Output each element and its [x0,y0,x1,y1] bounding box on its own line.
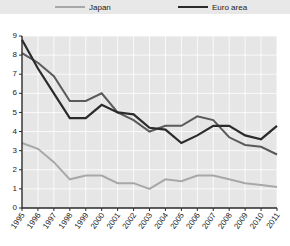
y-axis-tick-labels: 0123456789 [13,31,18,212]
chart-figure: Japan Euro area 0123456789 1995199619971… [0,0,290,246]
x-tick-label: 2000 [89,211,107,231]
legend-swatch-japan [55,6,85,8]
x-tick-label: 2005 [168,211,186,231]
x-tick-label: 2009 [232,211,250,231]
y-tick-label: 4 [13,127,18,136]
legend-swatch-euro-area [178,6,208,8]
x-tick-label: 1998 [57,211,75,231]
x-tick-label: 1996 [25,211,43,231]
x-axis-tick-labels: 1995199619971998199920002001200220032004… [9,211,282,231]
legend-item-japan: Japan [55,0,111,14]
y-tick-label: 9 [13,31,18,40]
plot-area: 0123456789 19951996199719981999200020012… [0,28,290,246]
x-tick-label: 1999 [73,211,91,231]
legend-label-euro-area: Euro area [212,3,247,12]
x-tick-label: 2003 [137,211,155,231]
y-tick-label: 7 [13,69,18,78]
y-tick-label: 8 [13,50,18,59]
legend-label-japan: Japan [89,3,111,12]
y-tick-label: 0 [13,203,18,212]
line-chart-svg: 0123456789 19951996199719981999200020012… [0,28,290,246]
legend-item-euro-area: Euro area [178,0,247,14]
y-tick-label: 5 [13,108,18,117]
x-tick-label: 2011 [264,211,282,231]
x-tick-label: 2001 [105,211,123,231]
y-tick-label: 1 [13,184,18,193]
y-tick-label: 6 [13,88,18,97]
x-tick-label: 2006 [184,211,202,231]
y-tick-label: 3 [13,146,18,155]
x-tick-label: 1997 [41,211,59,231]
x-tick-label: 2002 [121,211,139,231]
x-tick-label: 2007 [200,211,218,231]
x-tick-label: 2008 [216,211,234,231]
x-tick-label: 2010 [248,211,266,231]
x-tick-label: 1995 [9,211,27,231]
y-tick-label: 2 [13,165,18,174]
chart-legend: Japan Euro area [0,0,290,14]
x-tick-label: 2004 [152,211,170,231]
